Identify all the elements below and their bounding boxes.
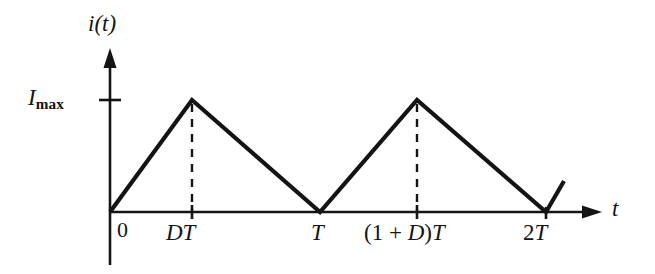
y-tick-label-imax: Imax <box>28 86 64 109</box>
x-tick-label-t: T <box>311 221 324 244</box>
current-waveform-trace <box>110 100 564 212</box>
x-tick-2t-var: T <box>535 220 548 245</box>
x-tick-label-dt: DT <box>166 221 195 244</box>
x-tick-1plusdt-open: (1 + <box>364 220 408 245</box>
origin-label-text: 0 <box>117 217 128 242</box>
x-tick-label-dt-text: DT <box>166 220 195 245</box>
y-axis-arrowhead <box>104 48 117 68</box>
x-tick-label-1plusdt: (1 + D)T <box>364 221 445 244</box>
x-axis-label-text: t <box>612 196 618 221</box>
origin-label: 0 <box>117 219 128 241</box>
x-axis-label: t <box>612 197 618 220</box>
x-tick-2t-number: 2 <box>523 220 535 245</box>
waveform-chart <box>0 0 655 274</box>
x-tick-label-2t: 2T <box>523 221 547 244</box>
x-tick-1plusdt-period: T <box>432 220 445 245</box>
imax-base: I <box>28 85 36 110</box>
x-tick-1plusdt-var: D <box>408 220 425 245</box>
y-axis-label: i(t) <box>88 12 116 35</box>
x-axis-arrowhead <box>582 206 602 219</box>
y-axis-label-text: i(t) <box>88 11 116 36</box>
waveform-figure: i(t) Imax 0 DT T (1 + D)T 2T t <box>0 0 655 274</box>
x-tick-1plusdt-close: ) <box>424 220 432 245</box>
x-tick-label-t-text: T <box>311 220 324 245</box>
imax-subscript: max <box>36 95 64 112</box>
